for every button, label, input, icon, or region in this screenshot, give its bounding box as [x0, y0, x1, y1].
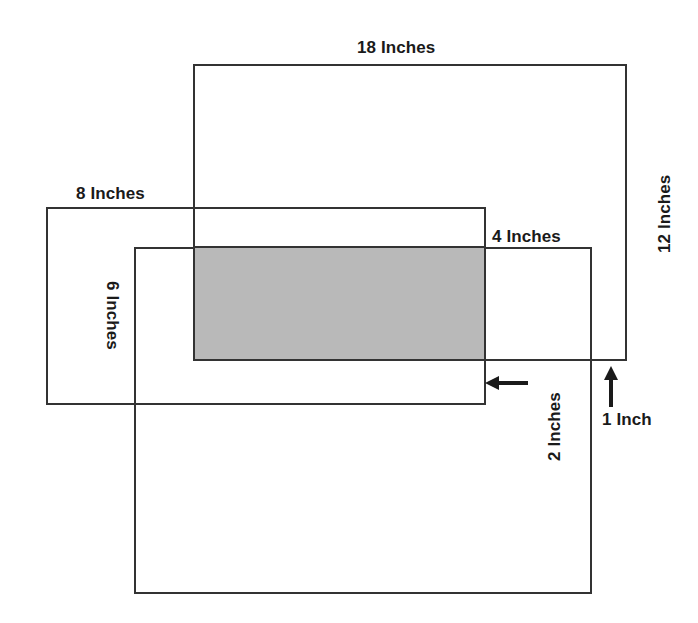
label-horizontal-offset: 2 Inches: [545, 392, 565, 461]
label-vertical-offset: 1 Inch: [602, 410, 652, 430]
label-right-height: 12 Inches: [655, 175, 675, 253]
label-bottom-top-width: 4 Inches: [492, 227, 561, 247]
overlap-right-edge: [484, 247, 486, 361]
vertical-offset-arrow: [600, 365, 622, 409]
overlap-left-edge: [193, 247, 195, 361]
overlap-region: [194, 248, 486, 361]
overlap-bottom-edge: [193, 359, 486, 361]
label-top-width: 18 Inches: [357, 38, 435, 58]
label-left-height: 6 Inches: [102, 281, 122, 350]
overlap-top-edge: [193, 246, 486, 248]
horizontal-offset-arrow: [484, 372, 530, 394]
diagram-canvas: 18 Inches 12 Inches 8 Inches 4 Inches 6 …: [0, 0, 698, 623]
label-middle-width: 8 Inches: [76, 184, 145, 204]
